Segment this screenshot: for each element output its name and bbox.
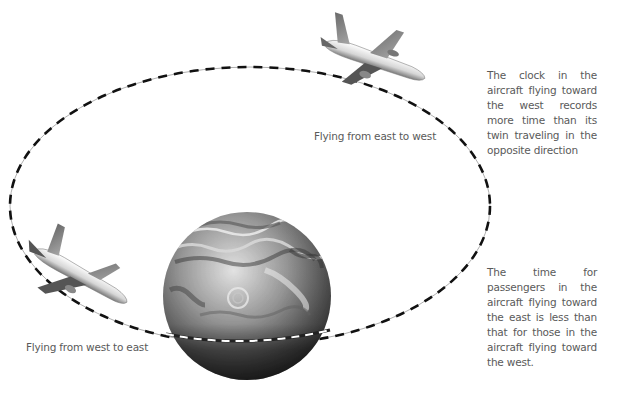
plane-east-to-west-icon xyxy=(309,8,436,105)
earth-globe xyxy=(160,200,340,400)
note-west-clock: The clock in the aircraft flying toward … xyxy=(487,68,597,158)
label-west-to-east: Flying from west to east xyxy=(26,341,148,353)
note-east-time: The time for passengers in the aircraft … xyxy=(487,265,597,370)
plane-west-to-east-icon xyxy=(10,215,144,329)
diagram-stage: Flying from east to west Flying from wes… xyxy=(0,0,631,400)
label-east-to-west: Flying from east to west xyxy=(314,130,436,142)
